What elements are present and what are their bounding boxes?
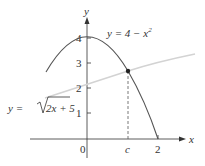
y-axis-arrow-icon (85, 17, 90, 24)
sqrt-curve (45, 54, 195, 98)
sqrt-radicand: 2x + 5 (46, 103, 75, 114)
intersection-point (126, 69, 130, 73)
y-tick-1: 1 (76, 108, 82, 119)
y-tick-3: 3 (76, 58, 82, 69)
x-axis-label: x (189, 134, 194, 145)
x-axis-arrow-icon (179, 137, 186, 142)
y-tick-4: 4 (76, 33, 82, 44)
sqrt-label: y = (8, 103, 23, 114)
y-axis-label: y (84, 6, 89, 17)
parabola-curve (46, 37, 158, 139)
x-tick-c: c (125, 144, 130, 155)
parabola-label: y = 4 − x2 (107, 27, 152, 39)
x-tick-0: 0 (80, 144, 86, 155)
plot-area (0, 0, 205, 166)
chart: y x 4 3 2 1 0 c 2 y = 4 − x2 y = 2x + 5 (0, 0, 205, 166)
y-tick-2: 2 (76, 83, 82, 94)
x-tick-2: 2 (155, 144, 161, 155)
